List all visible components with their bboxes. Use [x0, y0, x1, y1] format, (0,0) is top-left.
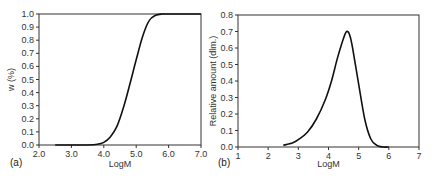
x-axis-ticks: 2.03.04.05.06.07.0 [33, 145, 208, 159]
y-tick-label: 0.4 [220, 76, 233, 86]
x-axis-label: LogM [109, 159, 132, 169]
x-tick-label: 7 [416, 151, 421, 161]
y-tick-label: 0.3 [220, 93, 233, 103]
y-tick-label: 0.6 [21, 61, 34, 71]
panel-label: (b) [218, 157, 230, 168]
x-tick-label: 3 [296, 151, 301, 161]
x-tick-label: 5.0 [130, 149, 143, 159]
y-tick-label: 0.7 [21, 48, 34, 58]
y-tick-label: 0.4 [21, 88, 34, 98]
y-tick-label: 0.3 [21, 101, 34, 111]
y-axis-label: Relative amount (dlm.) [208, 36, 218, 127]
data-line [55, 14, 201, 145]
chart-panel-b: 0.00.10.20.30.40.50.60.70.8 1234567 LogM… [208, 10, 422, 169]
x-tick-label: 3.0 [65, 149, 78, 159]
y-tick-label: 0.0 [220, 142, 233, 152]
y-axis-ticks: 0.00.10.20.30.40.50.60.70.80.91.0 [21, 9, 39, 150]
y-tick-label: 0.8 [21, 35, 34, 45]
x-tick-label: 2 [266, 151, 271, 161]
x-tick-label: 2.0 [33, 149, 46, 159]
y-axis-ticks: 0.00.10.20.30.40.50.60.70.8 [220, 10, 238, 152]
y-tick-label: 0.8 [220, 10, 233, 20]
y-tick-label: 0.1 [21, 127, 34, 137]
chart-panel-a: 0.00.10.20.30.40.50.60.70.80.91.0 2.03.0… [6, 9, 207, 169]
y-tick-label: 0.9 [21, 22, 34, 32]
x-axis-label: LogM [317, 159, 340, 169]
data-line [283, 31, 389, 147]
y-tick-label: 0.5 [220, 60, 233, 70]
x-tick-label: 7.0 [195, 149, 208, 159]
y-tick-label: 0.1 [220, 126, 233, 136]
x-tick-label: 6 [386, 151, 391, 161]
figure: 0.00.10.20.30.40.50.60.70.80.91.0 2.03.0… [0, 0, 434, 180]
x-tick-label: 4.0 [98, 149, 111, 159]
x-tick-label: 5 [356, 151, 361, 161]
plot-frame [238, 15, 419, 147]
y-axis-label: w (%) [6, 68, 16, 92]
x-tick-label: 1 [235, 151, 240, 161]
panel-label: (a) [10, 157, 22, 168]
y-tick-label: 0.6 [220, 43, 233, 53]
y-tick-label: 0.2 [21, 114, 34, 124]
x-tick-label: 6.0 [162, 149, 175, 159]
y-tick-label: 0.2 [220, 109, 233, 119]
y-tick-label: 1.0 [21, 9, 34, 19]
y-tick-label: 0.5 [21, 75, 34, 85]
plot-frame [39, 14, 201, 145]
y-tick-label: 0.7 [220, 27, 233, 37]
